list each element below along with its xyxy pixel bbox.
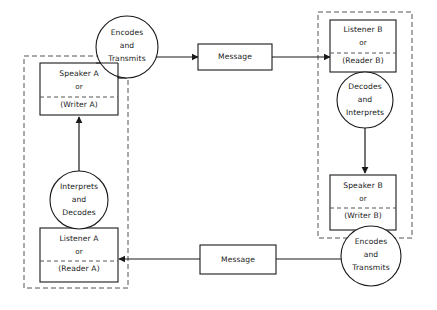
diagram-vector-layer	[0, 0, 437, 310]
speaker-b-box[interactable]	[330, 175, 396, 230]
communication-model-diagram: Speaker A or (Writer A) Listener A or (R…	[0, 0, 437, 310]
interprets-decodes-a-circle[interactable]	[50, 171, 108, 229]
listener-a-box[interactable]	[40, 228, 118, 282]
listener-b-box[interactable]	[330, 20, 396, 72]
encodes-transmits-a-circle[interactable]	[96, 16, 158, 78]
message-bottom-box[interactable]	[200, 245, 276, 274]
encodes-transmits-b-circle[interactable]	[341, 226, 401, 286]
decodes-interprets-b-circle[interactable]	[337, 72, 393, 128]
message-top-box[interactable]	[198, 44, 272, 70]
